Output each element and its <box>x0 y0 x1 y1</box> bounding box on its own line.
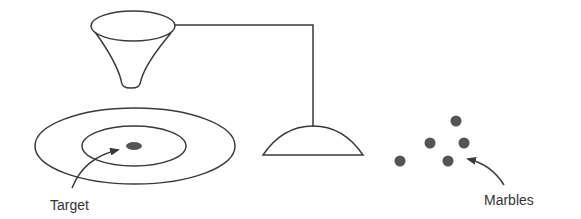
marbles-arrow-icon <box>468 159 504 185</box>
marble <box>443 156 454 167</box>
connecting-rod <box>175 25 313 127</box>
target-label: Target <box>50 197 89 213</box>
funnel-icon <box>91 11 175 88</box>
funnel-experiment-diagram: Target Marbles <box>0 0 581 219</box>
target-center <box>126 142 142 150</box>
marbles-callout: Marbles <box>468 159 534 208</box>
marble <box>425 138 436 149</box>
dome-base <box>263 126 363 155</box>
marble <box>451 116 462 127</box>
target-rings <box>35 108 235 184</box>
marbles-label: Marbles <box>484 192 534 208</box>
marbles <box>395 116 470 167</box>
marble <box>459 138 470 149</box>
target-callout: Target <box>50 150 118 213</box>
marble <box>395 156 406 167</box>
